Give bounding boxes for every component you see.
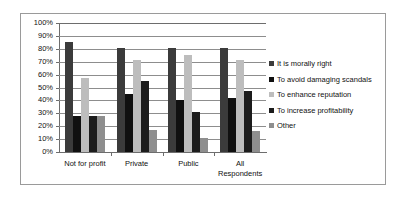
bar [252,131,260,152]
legend-swatch-icon [269,108,274,113]
bar [228,98,236,152]
y-axis-tick-label: 70% [38,58,53,66]
x-axis-label: Not for profit [59,159,111,169]
legend-label: To enhance reputation [277,90,351,99]
bar [133,60,141,152]
y-axis-tick-label: 0% [42,148,53,156]
plot-area [59,23,266,152]
legend-item: To enhance reputation [269,87,385,103]
legend-swatch-icon [269,61,274,66]
y-axis-tick-label: 10% [38,135,53,143]
bar [81,78,89,152]
chart-legend: It is morally rightTo avoid damaging sca… [269,56,385,134]
y-axis-tick-label: 40% [38,96,53,104]
bar [168,48,176,152]
chart-frame: 100%90%80%70%60%50%40%30%20%10%0% Not fo… [20,13,386,185]
legend-item: Other [269,118,385,134]
legend-label: To avoid damaging scandals [277,75,372,84]
bar [220,48,228,152]
x-axis-tick-mark [163,153,164,156]
bar [97,116,105,152]
bar [176,100,184,152]
legend-item: It is morally right [269,56,385,72]
x-axis-label: Private [111,159,163,169]
y-axis-tick-label: 80% [38,45,53,53]
legend-item: To avoid damaging scandals [269,72,385,88]
bar-group [214,23,266,152]
legend-label: It is morally right [277,59,332,68]
x-axis-label: All Respondents [214,159,266,178]
x-axis-tick-mark [111,153,112,156]
bar-group [111,23,163,152]
bar [200,138,208,152]
bar [149,130,157,152]
y-axis-tick-label: 60% [38,71,53,79]
y-axis-tick-labels: 100%90%80%70%60%50%40%30%20%10%0% [21,14,57,162]
y-axis-tick-label: 100% [34,19,53,27]
x-axis-label: Public [163,159,215,169]
legend-label: To increase profitability [277,106,353,115]
y-axis-tick-label: 20% [38,122,53,130]
bar [244,91,252,152]
bar [65,42,73,152]
legend-swatch-icon [269,123,274,128]
bar-group [163,23,215,152]
bar [117,48,125,152]
y-axis-tick-label: 90% [38,32,53,40]
legend-label: Other [277,121,296,130]
bar [192,112,200,152]
bar [141,81,149,152]
legend-swatch-icon [269,92,274,97]
bar [184,55,192,152]
x-axis-tick-mark [214,153,215,156]
bar [73,116,81,152]
bar [89,116,97,152]
bar [236,60,244,152]
bar-group [59,23,111,152]
y-axis-tick-label: 50% [38,84,53,92]
y-axis-tick-label: 30% [38,109,53,117]
bar [125,94,133,152]
legend-item: To increase profitability [269,103,385,119]
legend-swatch-icon [269,77,274,82]
